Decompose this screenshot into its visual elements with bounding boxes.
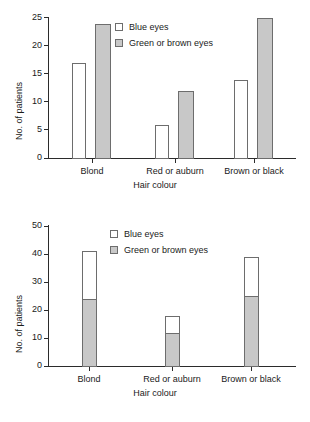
legend-item-blue-eyes: Blue eyes: [110, 227, 208, 240]
y-tick-label: 25: [26, 13, 42, 22]
legend-swatch-green-brown-eyes-icon: [115, 39, 123, 47]
x-tick-label: Blond: [59, 374, 119, 384]
x-tick-label: Brown or black: [211, 374, 291, 384]
x-tick-label: Blond: [62, 166, 122, 176]
legend-label-blue-eyes: Blue eyes: [129, 22, 169, 32]
y-tick: [44, 129, 48, 130]
y-tick-label: 40: [24, 249, 42, 258]
y-tick: [44, 158, 48, 159]
y-axis-title-bottom: No. of patients: [14, 295, 24, 353]
x-axis-title-top: Hair colour: [0, 180, 310, 190]
legend-label-green-brown-eyes: Green or brown eyes: [129, 38, 213, 48]
y-tick: [44, 101, 48, 102]
x-tick-label: Brown or black: [214, 166, 294, 176]
stack-blond-blue-eyes: [82, 251, 97, 300]
y-tick-label: 0: [24, 361, 42, 370]
y-tick-label: 0: [26, 153, 42, 162]
y-tick-label: 15: [26, 69, 42, 78]
x-axis-title-bottom: Hair colour: [0, 388, 310, 398]
legend-item-green-brown-eyes: Green or brown eyes: [110, 243, 208, 256]
bar-red-auburn-blue-eyes: [155, 125, 169, 159]
chart-bottom-stacked-bar: No. of patients 50 40 30 20 10 0 Blond R…: [0, 211, 310, 422]
legend-swatch-green-brown-eyes-icon: [110, 246, 118, 254]
bar-red-auburn-green-brown-eyes: [178, 91, 194, 159]
x-tick: [175, 159, 176, 163]
legend-top: Blue eyes Green or brown eyes: [115, 20, 213, 52]
y-axis-line-bottom: [48, 225, 49, 367]
y-axis-line-top: [48, 17, 49, 159]
y-tick: [44, 282, 48, 283]
legend-swatch-blue-eyes-icon: [115, 23, 123, 31]
y-tick: [44, 254, 48, 255]
x-tick: [89, 367, 90, 371]
legend-item-blue-eyes: Blue eyes: [115, 20, 213, 33]
y-tick: [44, 45, 48, 46]
chart-top-grouped-bar: No. of patients 25 20 15 10 5 0 Blond Re…: [0, 0, 310, 211]
stack-blond-green-brown-eyes: [82, 299, 97, 367]
y-tick-label: 20: [26, 41, 42, 50]
y-tick: [44, 73, 48, 74]
legend-bottom: Blue eyes Green or brown eyes: [110, 227, 208, 259]
legend-label-blue-eyes: Blue eyes: [124, 229, 164, 239]
bar-blond-blue-eyes: [72, 63, 86, 159]
x-tick: [92, 159, 93, 163]
y-tick: [44, 310, 48, 311]
stack-brown-black-blue-eyes: [244, 257, 259, 297]
bar-brown-black-blue-eyes: [234, 80, 248, 159]
bar-blond-green-brown-eyes: [95, 24, 111, 159]
y-tick-label: 10: [26, 97, 42, 106]
stack-brown-black-green-brown-eyes: [244, 296, 259, 367]
legend-item-green-brown-eyes: Green or brown eyes: [115, 36, 213, 49]
x-tick: [172, 367, 173, 371]
legend-label-green-brown-eyes: Green or brown eyes: [124, 245, 208, 255]
y-axis-title-top: No. of patients: [14, 82, 24, 140]
x-tick-label: Red or auburn: [135, 166, 215, 176]
y-tick-label: 50: [24, 221, 42, 230]
y-tick-label: 30: [24, 277, 42, 286]
legend-swatch-blue-eyes-icon: [110, 230, 118, 238]
y-tick-label: 5: [26, 125, 42, 134]
y-tick: [44, 366, 48, 367]
x-tick-label: Red or auburn: [132, 374, 212, 384]
bar-brown-black-green-brown-eyes: [257, 18, 273, 159]
y-tick: [44, 338, 48, 339]
y-tick-label: 20: [24, 305, 42, 314]
x-tick: [251, 367, 252, 371]
y-tick: [44, 17, 48, 18]
y-tick-label: 10: [24, 333, 42, 342]
stack-red-auburn-green-brown-eyes: [165, 333, 180, 367]
stack-red-auburn-blue-eyes: [165, 316, 180, 334]
x-tick: [254, 159, 255, 163]
y-tick: [44, 226, 48, 227]
